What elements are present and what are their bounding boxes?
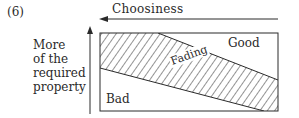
y-axis-label-line: More [33,38,86,52]
property-axis-arrow [87,26,93,114]
y-axis-label-line: property [33,80,86,94]
bad-region-label: Bad [106,92,130,106]
x-axis-label: Choosiness [112,2,184,16]
y-axis-label-line: of the [33,52,86,66]
y-axis-label: More of the required property [33,38,86,94]
figure-number: (6) [7,5,24,19]
good-region-label: Good [228,36,260,50]
y-axis-label-line: required [33,66,86,80]
choosiness-arrow [99,16,278,22]
